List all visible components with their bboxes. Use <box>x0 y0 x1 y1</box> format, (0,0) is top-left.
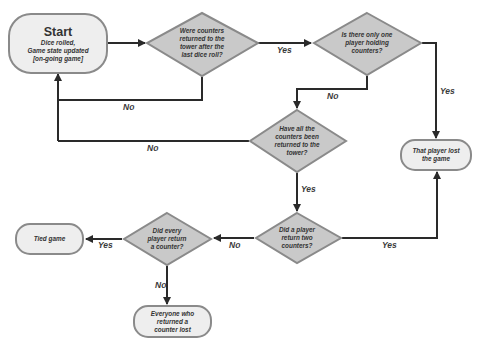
everyone-lost-line1: Everyone who <box>151 310 194 318</box>
edge-label-d4-no: No <box>229 240 240 250</box>
decision-one-player-holding-text: Is there only one player holding counter… <box>327 29 407 57</box>
decision-all-returned-text: Have all the counters been returned to t… <box>262 123 332 159</box>
start-line3: [on-going game] <box>33 55 83 63</box>
d3-line2: counters been <box>275 133 319 141</box>
edge-label-d1-no: No <box>123 102 134 112</box>
player-lost-line2: the game <box>422 155 450 163</box>
d1-line1: Were counters <box>180 27 224 35</box>
edge-label-d2-yes: Yes <box>440 86 455 96</box>
edge-label-d3-no: No <box>147 143 158 153</box>
edge-label-d2-no: No <box>327 91 338 101</box>
edge-label-d4-yes: Yes <box>382 240 397 250</box>
decision-every-player-text: Did every player return a counter? <box>137 226 197 252</box>
edge-label-d1-yes: Yes <box>277 45 292 55</box>
edge-d2-yes <box>422 43 436 138</box>
d4-line2: return two <box>281 234 312 242</box>
start-node-text: Start Dice rolled, Game state updated [o… <box>9 14 107 73</box>
tied-game-line1: Tied game <box>34 235 66 243</box>
decision-returned-after-roll-text: Were counters returned to the tower afte… <box>162 25 242 61</box>
d5-line3: a counter? <box>151 243 184 251</box>
d3-line4: tower? <box>287 149 308 157</box>
edge-label-d5-yes: Yes <box>98 240 113 250</box>
player-lost-line1: That player lost <box>412 147 459 155</box>
edge-d4-yes <box>342 172 437 238</box>
start-title: Start <box>44 25 72 39</box>
d2-line1: Is there only one <box>342 31 393 39</box>
d1-line3: tower after the <box>180 43 224 51</box>
start-line1: Dice rolled, <box>41 39 75 47</box>
d5-line2: player return <box>147 235 186 243</box>
everyone-lost-line2: returned a <box>157 318 188 326</box>
start-line2: Game state updated <box>27 47 88 55</box>
edge-label-d3-yes: Yes <box>301 184 316 194</box>
d4-line3: counters? <box>282 242 313 250</box>
d3-line3: returned to the <box>274 141 319 149</box>
everyone-lost-line3: counter lost <box>154 326 191 334</box>
player-lost-text: That player lost the game <box>401 140 471 170</box>
edge-d1-no <box>58 77 202 100</box>
d1-line2: returned to the <box>179 35 224 43</box>
d4-line1: Did a player <box>279 226 315 234</box>
decision-two-counters-text: Did a player return two counters? <box>267 225 327 251</box>
edge-label-d5-no: No <box>155 280 166 290</box>
d2-line3: counters? <box>352 47 383 55</box>
d2-line2: player holding <box>345 39 389 47</box>
d3-line1: Have all the <box>279 125 315 133</box>
d5-line1: Did every <box>153 227 182 235</box>
everyone-lost-text: Everyone who returned a counter lost <box>134 306 211 337</box>
d1-line4: last dice roll? <box>181 51 222 59</box>
tied-game-text: Tied game <box>16 224 83 254</box>
